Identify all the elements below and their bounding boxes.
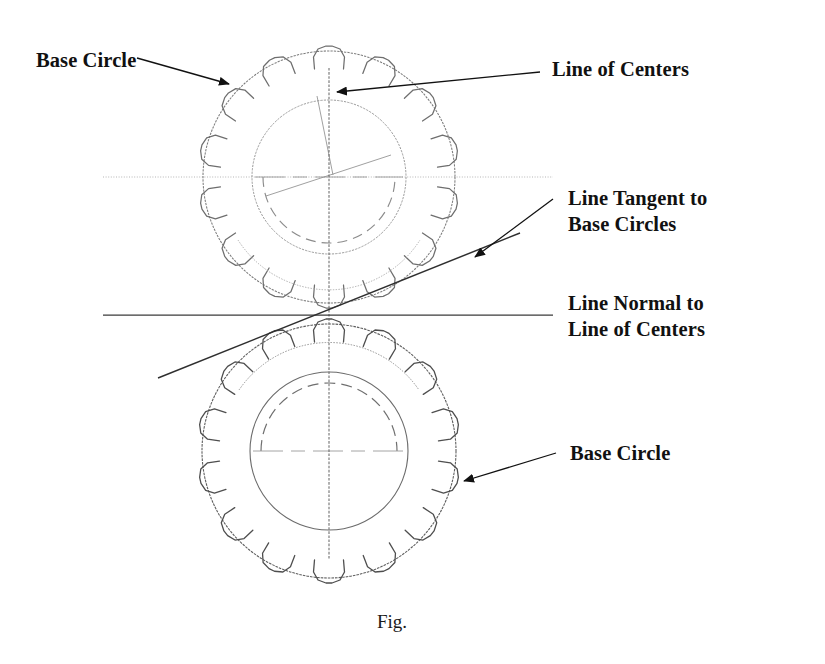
label-line-tangent-to-base-circles: Line Tangent to Base Circles <box>568 185 707 237</box>
leader-line-tangent <box>475 199 553 257</box>
label-line-of-centers: Line of Centers <box>552 56 689 82</box>
label-base-circle-top: Base Circle <box>36 47 136 73</box>
leader-line-of-centers <box>337 72 540 92</box>
label-base-circle-bottom: Base Circle <box>570 440 670 466</box>
figure-page: Base Circle Line of Centers Line Tangent… <box>0 0 825 664</box>
line-tangent-to-base-circles <box>158 233 520 378</box>
leader-base-circle-top <box>137 58 229 84</box>
leader-lines <box>137 58 556 481</box>
figure-caption: Fig. <box>377 611 407 633</box>
label-line-normal-to-line-of-centers: Line Normal to Line of Centers <box>568 290 705 342</box>
leader-base-circle-bottom <box>464 453 556 481</box>
